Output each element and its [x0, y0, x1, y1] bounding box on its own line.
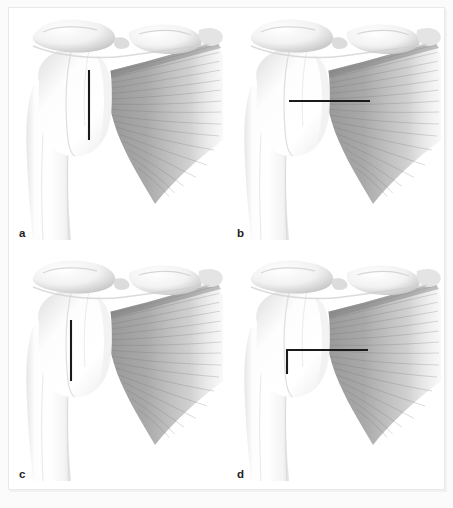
rotator-cuff-muscle-b [323, 42, 441, 206]
panel-a: a [9, 8, 226, 248]
panel-grid: a [9, 8, 444, 489]
panel-c: c [9, 249, 226, 489]
figure-root: a [0, 0, 453, 508]
panel-b: b [227, 8, 444, 248]
anatomy-illustration-a [9, 8, 226, 248]
panel-label-c: c [19, 469, 26, 481]
anatomy-illustration-d [227, 249, 444, 489]
humeral-head-d [256, 289, 330, 397]
panel-d: d [227, 249, 444, 489]
rotator-cuff-muscle-d [323, 283, 441, 447]
panel-label-b: b [237, 228, 244, 240]
humeral-head-a [38, 48, 112, 156]
humeral-head-c [38, 289, 112, 397]
anatomy-illustration-b [227, 8, 444, 248]
rotator-cuff-muscle-a [105, 42, 223, 206]
panel-label-d: d [237, 469, 244, 481]
anatomy-illustration-c [9, 249, 226, 489]
panel-label-a: a [19, 228, 26, 240]
rotator-cuff-muscle-c [105, 283, 223, 447]
humeral-head-b [256, 48, 330, 156]
